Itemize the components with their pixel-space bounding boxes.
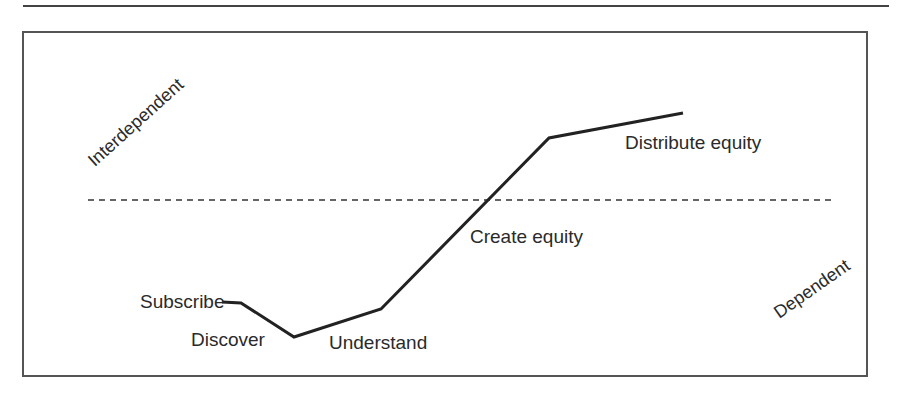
- understand-label: Understand: [329, 332, 427, 354]
- progression-diagram: [0, 0, 913, 404]
- distribute-equity-label: Distribute equity: [625, 132, 761, 154]
- create-equity-label: Create equity: [470, 226, 583, 248]
- discover-label: Discover: [191, 329, 265, 351]
- subscribe-label: Subscribe: [140, 291, 225, 313]
- progression-line: [222, 113, 683, 337]
